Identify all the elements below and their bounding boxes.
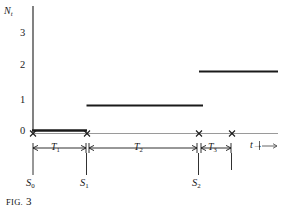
y-axis-label-main: N — [4, 5, 11, 16]
interval-label-t3: T3 — [208, 142, 217, 153]
figure-3-container: Nt 3 2 1 0 T1 T2 T3 t→ S0 S1 S2 FIG.3 — [0, 0, 281, 210]
figure-caption: FIG.3 — [6, 192, 32, 208]
state-s2-sub: 2 — [197, 182, 200, 189]
x-axis-arrow: → — [253, 139, 263, 150]
interval-t2-sub: 2 — [140, 146, 143, 153]
state-label-s1: S1 — [80, 178, 89, 190]
figure-caption-number: 3 — [26, 195, 32, 207]
interval-t3-sub: 3 — [214, 146, 217, 153]
y-tick-3: 3 — [20, 28, 25, 39]
interval-t1-sub: 1 — [57, 146, 60, 153]
y-axis-label: Nt — [4, 6, 13, 18]
interval-label-t2: T2 — [134, 142, 143, 153]
step-function-plot — [0, 0, 281, 210]
x-axis-label: t→ — [250, 140, 263, 150]
state-s0-sub: 0 — [31, 182, 34, 189]
y-tick-0: 0 — [20, 126, 25, 137]
state-label-s0: S0 — [26, 178, 35, 190]
state-label-s2: S2 — [192, 178, 201, 190]
y-tick-1: 1 — [20, 95, 25, 106]
dimension-line-t2 — [89, 143, 197, 153]
y-axis-label-sub: t — [11, 10, 13, 17]
interval-label-t1: T1 — [51, 142, 60, 153]
t-axis-arrow-glyph — [262, 144, 277, 149]
state-s1-sub: 1 — [85, 182, 88, 189]
y-tick-2: 2 — [20, 60, 25, 71]
figure-caption-prefix: FIG. — [6, 197, 23, 207]
